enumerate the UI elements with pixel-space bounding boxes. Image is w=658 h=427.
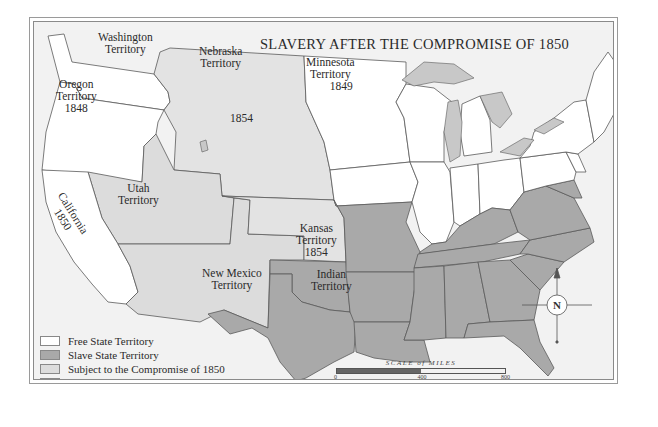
legend-item-kansas-nebraska: Subject to the Kansas-Nebraska Act xyxy=(40,376,226,380)
label-washington: WashingtonTerritory xyxy=(98,31,153,55)
legend-swatch-slave xyxy=(40,350,60,360)
label-utah: UtahTerritory xyxy=(118,182,159,206)
label-kansas: KansasTerritory1854 xyxy=(296,222,337,258)
legend-label: Slave State Territory xyxy=(68,349,159,361)
label-oregon: OregonTerritory1848 xyxy=(56,78,97,114)
legend-label: Free State Territory xyxy=(68,335,154,347)
legend-swatch-free xyxy=(40,336,60,346)
label-minnesota: MinnesotaTerritory1849 xyxy=(306,56,355,92)
scale-tick-800: 800 xyxy=(501,374,510,380)
legend-swatch-kansas-nebraska xyxy=(40,378,60,380)
map-legend: Free State Territory Slave State Territo… xyxy=(40,334,226,380)
missouri xyxy=(334,200,420,272)
scale-tick-0: 0 xyxy=(334,374,337,380)
label-nebraska: NebraskaTerritory xyxy=(199,45,242,69)
compass-north-label: N xyxy=(553,299,561,311)
arkansas xyxy=(346,272,418,322)
new-york xyxy=(520,100,594,158)
scale-title: SCALE of MILES xyxy=(336,359,506,367)
legend-item-compromise: Subject to the Compromise of 1850 xyxy=(40,362,226,376)
map-title: SLAVERY AFTER THE COMPROMISE OF 1850 xyxy=(260,36,569,53)
legend-label: Subject to the Compromise of 1850 xyxy=(68,363,225,375)
scale-tick-400: 400 xyxy=(418,374,427,380)
legend-item-free: Free State Territory xyxy=(40,334,226,348)
lake-superior xyxy=(402,62,474,86)
legend-swatch-compromise xyxy=(40,364,60,374)
map-canvas: N SLAVERY AFTER THE COMPROMISE OF 1850 W… xyxy=(33,21,614,380)
label-indian: IndianTerritory xyxy=(311,268,352,292)
label-nebraska-year: 1854 xyxy=(230,112,253,124)
label-new-mexico: New MexicoTerritory xyxy=(202,267,262,291)
legend-item-slave: Slave State Territory xyxy=(40,348,226,362)
scale-of-miles: SCALE of MILES 0 400 800 xyxy=(336,359,506,380)
legend-label: Subject to the Kansas-Nebraska Act xyxy=(68,377,226,380)
illinois xyxy=(410,162,454,244)
iowa xyxy=(330,162,418,206)
